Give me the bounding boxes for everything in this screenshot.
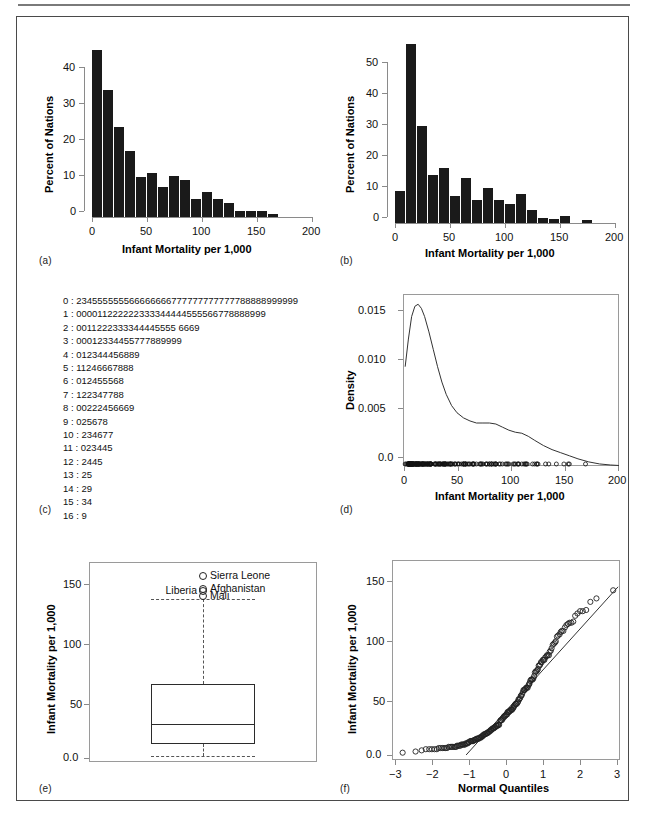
panel-f-xtick-mark-0: [506, 760, 507, 765]
panel-b-histogram: Percent of Nations 50 40 30 20 10 0 0 50…: [340, 25, 630, 270]
box-iqr-rect: [151, 684, 255, 744]
panel-e-tag: (e): [39, 783, 52, 794]
boxplot-outlier-label: Sierra Leone: [210, 569, 270, 581]
panel-a-bar: [147, 173, 157, 217]
panel-d-xtick-50: 50: [451, 474, 463, 486]
stem-leaf-row: 9 : 025678: [63, 415, 298, 428]
stem-leaf-row: 12 : 2445: [63, 455, 298, 468]
panel-d-xtick-150: 150: [555, 474, 573, 486]
panel-a-bar: [224, 203, 234, 217]
panel-a-bar: [158, 187, 168, 217]
stem-leaf-row: 10 : 234677: [63, 428, 298, 441]
panel-d-xtick-mark-0: [404, 466, 405, 471]
panel-b-bar: [472, 200, 482, 223]
panel-a-tag: (a): [39, 255, 52, 266]
panel-e-boxplot: Infant Mortality per 1,000 150 100 50 0.…: [39, 522, 329, 792]
panel-d-xtick-0: 0: [401, 474, 407, 486]
panel-f-xtick-1: 1: [540, 768, 546, 780]
panel-f-xtick-mark-2: [580, 760, 581, 765]
panel-f-xtick-3: 3: [614, 768, 620, 780]
panel-f-xtick-mark-n1: [469, 760, 470, 765]
panel-a-bars: [39, 25, 319, 270]
panel-d-x-axis-title: Infant Mortality per 1,000: [435, 490, 565, 502]
panel-f-xtick-n3: −3: [389, 768, 402, 780]
panel-f-xtick-mark-1: [543, 760, 544, 765]
panel-a-bar: [268, 214, 278, 217]
stem-leaf-row: 14 : 29: [63, 482, 298, 495]
panel-f-xtick-n2: −2: [426, 768, 439, 780]
panel-a-bar: [213, 199, 223, 217]
density-curve: [405, 304, 619, 465]
panel-b-bar: [494, 200, 504, 223]
panel-b-bar: [560, 216, 570, 223]
panel-c-tag: (c): [39, 504, 51, 515]
qq-scatter-points: [400, 588, 616, 756]
panel-b-bar: [428, 175, 438, 223]
panel-a-bar: [114, 127, 124, 217]
panel-f-x-axis-title: Normal Quantiles: [458, 782, 549, 794]
boxplot-outlier-point: [199, 572, 207, 580]
panel-b-tag: (b): [340, 255, 353, 266]
stem-leaf-rows: 0 : 234555555566666666777777777777788888…: [63, 294, 298, 522]
stem-leaf-row: 13 : 25: [63, 468, 298, 481]
panel-a-bar: [246, 211, 256, 217]
stem-leaf-row: 3 : 00012334455777889999: [63, 334, 298, 347]
panel-a-histogram: Percent of Nations 40 30 20 10 0 0 50 10…: [39, 25, 319, 270]
panel-a-bar: [235, 211, 245, 217]
panel-b-bar: [516, 194, 526, 223]
panel-b-bar: [417, 126, 427, 223]
panel-b-bar: [538, 218, 548, 223]
panel-f-xtick-mark-n2: [432, 760, 433, 765]
panel-a-bar: [191, 199, 201, 217]
panel-f-xtick-mark-n3: [395, 760, 396, 765]
panel-d-density-curve-svg: [340, 282, 630, 512]
panel-a-bar: [169, 176, 179, 217]
figure-container: Percent of Nations 40 30 20 10 0 0 50 10…: [16, 16, 629, 801]
panel-f-xtick-mark-3: [617, 760, 618, 765]
panel-f-xtick-2: 2: [577, 768, 583, 780]
panel-b-bar: [395, 191, 405, 223]
stem-leaf-row: 6 : 012455568: [63, 374, 298, 387]
panel-b-bar: [450, 196, 460, 223]
boxplot-outlier-label: Mali: [210, 589, 229, 601]
panel-d-density-plot: Density 0.015 0.010 0.005 0.0 0 50 100 1…: [340, 282, 630, 512]
stem-leaf-row: 1 : 000011222222333344444555566778888999: [63, 307, 298, 320]
stem-leaf-row: 2 : 0011222333344445555 6669: [63, 321, 298, 334]
stem-leaf-row: 16 : 9: [63, 509, 298, 522]
boxplot-outlier-point: [199, 592, 207, 600]
panel-b-bar: [483, 188, 493, 223]
panel-a-bar: [202, 192, 212, 218]
panel-f-xtick-n1: −1: [463, 768, 476, 780]
stem-leaf-row: 0 : 234555555566666666777777777777788888…: [63, 294, 298, 307]
panel-f-scatter-svg: [340, 522, 630, 792]
panel-f-qq-plot: Infant Mortality per 1,000 150 100 50 0.…: [340, 522, 630, 792]
panel-a-bar: [180, 180, 190, 217]
panel-d-xtick-100: 100: [501, 474, 519, 486]
stem-leaf-row: 15 : 34: [63, 495, 298, 508]
panel-a-bar: [136, 177, 146, 217]
stem-leaf-row: 11 : 023445: [63, 441, 298, 454]
panel-d-tag: (d): [340, 504, 353, 515]
panel-b-bar: [461, 178, 471, 223]
panel-a-bar: [125, 151, 135, 217]
panel-c-stem-and-leaf: 0 : 234555555566666666777777777777788888…: [39, 282, 329, 512]
stem-leaf-row: 5 : 11246667888: [63, 361, 298, 374]
panel-f-tag: (f): [340, 783, 350, 794]
panel-b-bar: [582, 220, 592, 223]
panel-b-bar: [549, 219, 559, 223]
panel-b-bars: [340, 25, 630, 270]
stem-leaf-row: 8 : 00222456669: [63, 401, 298, 414]
stem-leaf-row: 4 : 012344456889: [63, 348, 298, 361]
panel-b-bar: [439, 168, 449, 223]
panel-e-box-layer: Sierra LeoneAfghanistanLiberiaMali: [39, 522, 329, 792]
panel-d-xtick-200: 200: [608, 474, 626, 486]
box-lower-cap: [151, 756, 255, 757]
panel-d-xtick-mark-100: [511, 466, 512, 471]
panel-a-bar: [257, 211, 267, 217]
panel-a-bar: [103, 90, 113, 217]
panel-d-xtick-mark-200: [618, 466, 619, 471]
panel-f-xtick-0: 0: [503, 768, 509, 780]
top-divider-rule: [18, 4, 630, 6]
panel-b-bar: [527, 210, 537, 223]
panel-d-xtick-mark-150: [565, 466, 566, 471]
